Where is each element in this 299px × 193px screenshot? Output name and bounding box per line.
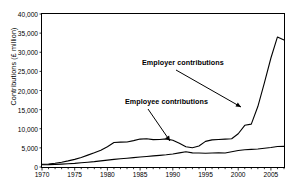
- x-tick-label: 2005: [264, 171, 279, 178]
- x-tick-label: 1980: [100, 171, 115, 178]
- x-tick-label: 1970: [35, 171, 50, 178]
- y-axis-tick-labels: 05,00010,00015,00020,00025,00030,00035,0…: [0, 0, 38, 193]
- y-tick-label: 0: [34, 164, 38, 171]
- y-tick-label: 35,000: [18, 30, 38, 37]
- y-tick-label: 10,000: [18, 125, 38, 132]
- annotation-label: Employer contributions: [142, 58, 224, 67]
- y-tick-label: 40,000: [18, 11, 38, 18]
- x-tick-label: 1995: [198, 171, 213, 178]
- x-tick-label: 1990: [165, 171, 180, 178]
- y-tick-label: 25,000: [18, 68, 38, 75]
- y-tick-label: 20,000: [18, 87, 38, 94]
- x-tick-label: 1975: [67, 171, 82, 178]
- annotation-label: Employee contributions: [125, 97, 208, 106]
- y-tick-label: 30,000: [18, 49, 38, 56]
- y-tick-label: 15,000: [18, 106, 38, 113]
- x-tick-label: 1985: [133, 171, 148, 178]
- plot-area: [41, 13, 285, 168]
- y-tick-label: 5,000: [21, 144, 38, 151]
- x-tick-label: 2000: [231, 171, 246, 178]
- pension-contributions-chart: Contributions (£ million) 05,00010,00015…: [0, 0, 299, 193]
